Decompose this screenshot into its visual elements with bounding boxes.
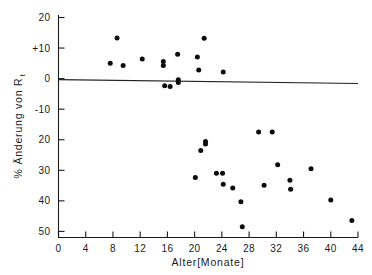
scatter-points-group <box>108 35 355 229</box>
x-tick-label: 4 <box>83 243 89 254</box>
y-tick-label: 30 <box>39 165 51 176</box>
y-tick-label: 20 <box>39 134 51 145</box>
x-tick-label: 0 <box>56 243 62 254</box>
scatter-point <box>220 171 225 176</box>
y-axis-title-group: % Änderung von R t <box>12 73 27 178</box>
scatter-point <box>275 162 280 167</box>
scatter-point <box>176 80 181 85</box>
x-tick-label: 24 <box>216 243 228 254</box>
regression-trendline <box>59 80 359 84</box>
y-axis-ticklabels: 20+100-1020304050 <box>32 12 50 237</box>
x-tick-label: 20 <box>189 243 201 254</box>
y-tick-label: 0 <box>45 73 51 84</box>
x-tick-label: 44 <box>352 243 364 254</box>
y-tick-label: -10 <box>35 104 51 115</box>
scatter-point <box>288 187 293 192</box>
y-tick-label: +10 <box>32 43 50 54</box>
x-axis-tickmarks <box>59 232 359 238</box>
scatter-chart-figure: 20+100-1020304050 048121620242832364044 … <box>0 0 372 275</box>
scatter-point <box>162 83 167 88</box>
scatter-point <box>262 183 267 188</box>
scatter-point <box>221 182 226 187</box>
scatter-point <box>203 139 208 144</box>
scatter-point <box>193 175 198 180</box>
scatter-point <box>214 171 219 176</box>
x-tick-label: 12 <box>134 243 146 254</box>
scatter-point <box>198 148 203 153</box>
chart-canvas: 20+100-1020304050 048121620242832364044 … <box>0 0 372 275</box>
scatter-point <box>238 199 243 204</box>
scatter-point <box>196 68 201 73</box>
y-tick-label: 50 <box>39 226 51 237</box>
scatter-point <box>121 63 126 68</box>
scatter-point <box>161 63 166 68</box>
x-tick-label: 28 <box>243 243 255 254</box>
y-tick-label: 40 <box>39 195 51 206</box>
y-tick-label: 20 <box>39 12 51 23</box>
x-tick-label: 16 <box>161 243 173 254</box>
scatter-point <box>287 178 292 183</box>
scatter-point <box>140 57 145 62</box>
x-axis-ticklabels: 048121620242832364044 <box>56 243 364 254</box>
scatter-point <box>270 130 275 135</box>
scatter-point <box>230 186 235 191</box>
scatter-point <box>309 166 314 171</box>
scatter-point <box>168 84 173 89</box>
x-tick-label: 8 <box>110 243 116 254</box>
x-tick-label: 36 <box>298 243 310 254</box>
scatter-point <box>221 69 226 74</box>
scatter-point <box>175 52 180 57</box>
scatter-point <box>256 130 261 135</box>
scatter-point <box>115 35 120 40</box>
y-axis-title-subscript: t <box>18 73 27 76</box>
scatter-point <box>328 197 333 202</box>
scatter-point <box>108 61 113 66</box>
x-axis-title: Alter[Monate] <box>172 256 245 268</box>
scatter-point <box>349 218 354 223</box>
x-tick-label: 32 <box>270 243 282 254</box>
y-axis-title: % Änderung von R <box>12 78 24 179</box>
scatter-point <box>202 36 207 41</box>
scatter-point <box>240 224 245 229</box>
y-axis-tickmarks <box>59 18 65 232</box>
x-tick-label: 40 <box>325 243 337 254</box>
scatter-point <box>195 54 200 59</box>
